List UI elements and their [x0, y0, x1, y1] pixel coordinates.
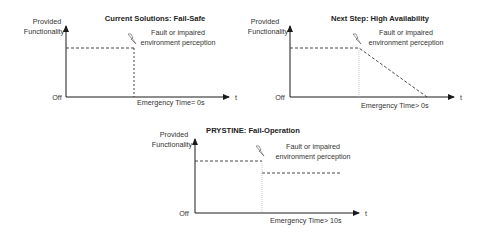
x-axis-label: t: [365, 209, 367, 218]
fault-label-line1: Fault or impaired: [286, 142, 340, 151]
y-axis-label-line1: Provided: [251, 17, 279, 26]
y-axis-label-line2: Functionality: [248, 27, 289, 36]
y-axis-label-line1: Provided: [160, 130, 188, 139]
emergency-time-label: Emergency Time= 0s: [137, 98, 205, 107]
y-min-label: Off: [52, 93, 61, 102]
fault-label-line1: Fault or impaired: [151, 28, 205, 37]
y-axis-label-line2: Functionality: [152, 140, 193, 149]
lightning-icon: [353, 34, 361, 44]
functionality-line: [290, 48, 427, 97]
y-axis-label-line2: Functionality: [24, 27, 65, 36]
panel-fail-safe: Current Solutions: Fail-Safe Provided Fu…: [24, 14, 237, 107]
panel-title: Next Step: High Availability: [331, 14, 430, 23]
y-min-label: Off: [275, 93, 284, 102]
fault-label-line2: environment perception: [368, 38, 443, 47]
fault-label-line2: environment perception: [275, 152, 350, 161]
panel-title: PRYSTINE: Fail-Operation: [206, 126, 300, 135]
panel-high-availability: Next Step: High Availability Provided Fu…: [248, 14, 462, 110]
panel-fail-operation: PRYSTINE: Fail-Operation Provided Functi…: [152, 126, 367, 225]
y-axis-label-line1: Provided: [33, 17, 61, 26]
emergency-time-label: Emergency Time> 0s: [361, 101, 429, 110]
lightning-icon: [256, 146, 264, 156]
emergency-time-label: Emergency Time> 10s: [270, 216, 342, 225]
lightning-icon: [128, 34, 136, 44]
x-axis-label: t: [235, 93, 237, 102]
x-axis-label: t: [460, 93, 462, 102]
fault-label-line2: environment perception: [140, 38, 215, 47]
panel-title: Current Solutions: Fail-Safe: [105, 14, 205, 23]
fault-label-line1: Fault or impaired: [379, 28, 433, 37]
y-min-label: Off: [179, 209, 188, 218]
diagram-canvas: Current Solutions: Fail-Safe Provided Fu…: [0, 0, 480, 232]
